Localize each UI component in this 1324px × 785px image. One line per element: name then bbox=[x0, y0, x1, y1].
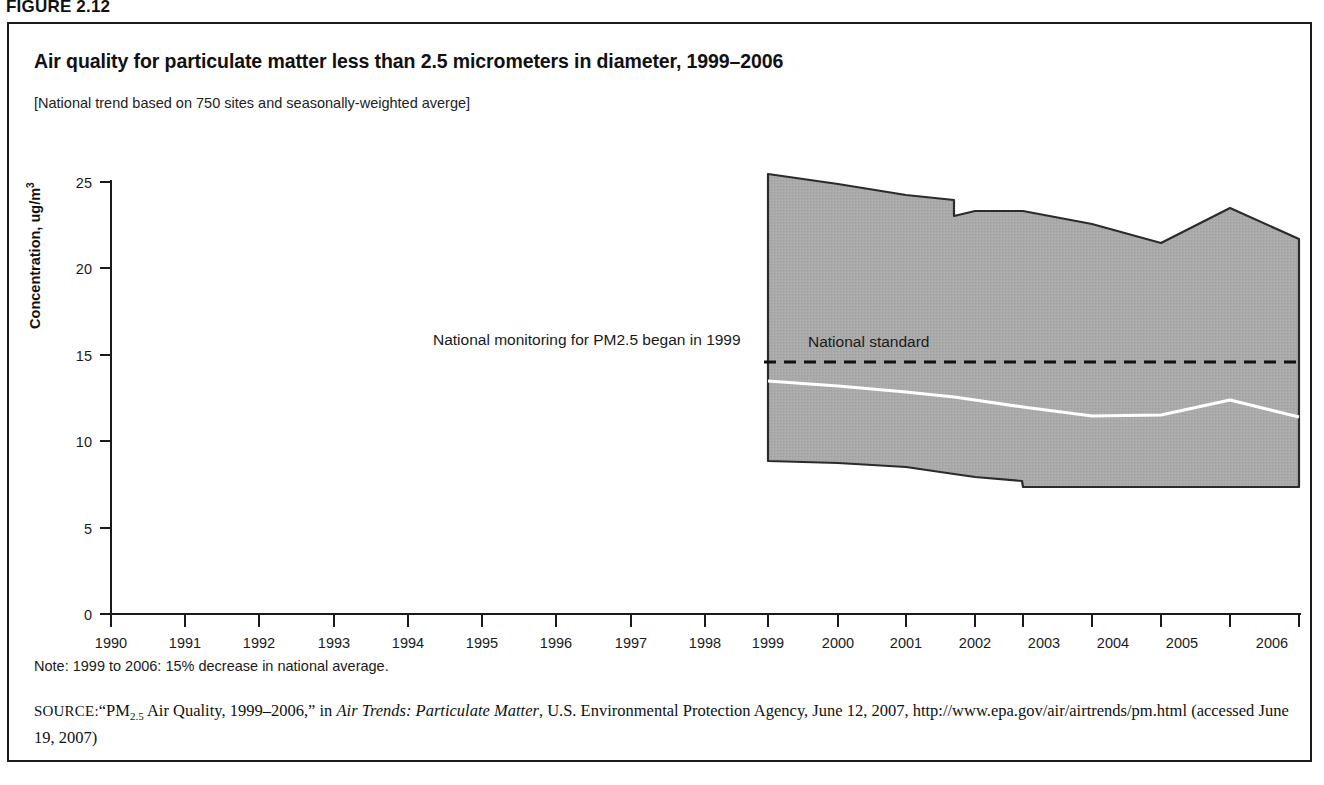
y-axis-title-text: Concentration, ug/m bbox=[27, 188, 43, 329]
chart-subtitle: [National trend based on 750 sites and s… bbox=[34, 95, 470, 111]
annotation-monitoring-began: National monitoring for PM2.5 began in 1… bbox=[433, 331, 741, 349]
chart-source: SOURCE:“PM2.5 Air Quality, 1999–2006,” i… bbox=[34, 700, 1289, 748]
source-quote-open: “PM bbox=[99, 701, 130, 720]
annotation-national-standard: National standard bbox=[808, 333, 930, 351]
y-axis-title: Concentration, ug/m3 bbox=[25, 289, 43, 329]
chart-note: Note: 1999 to 2006: 15% decrease in nati… bbox=[34, 658, 389, 674]
chart-title: Air quality for particulate matter less … bbox=[34, 50, 783, 73]
y-axis-title-exponent: 3 bbox=[25, 182, 36, 188]
source-prefix: SOURCE: bbox=[34, 703, 99, 719]
source-subscript: 2.5 bbox=[130, 710, 144, 722]
source-publication-title: Air Trends: Particulate Matter bbox=[336, 701, 538, 720]
figure-root: FIGURE 2.12 Air quality for particulate … bbox=[0, 0, 1324, 785]
source-middle: Air Quality, 1999–2006,” in bbox=[144, 701, 337, 720]
figure-number-label: FIGURE 2.12 bbox=[6, 0, 110, 17]
figure-frame bbox=[7, 22, 1312, 762]
